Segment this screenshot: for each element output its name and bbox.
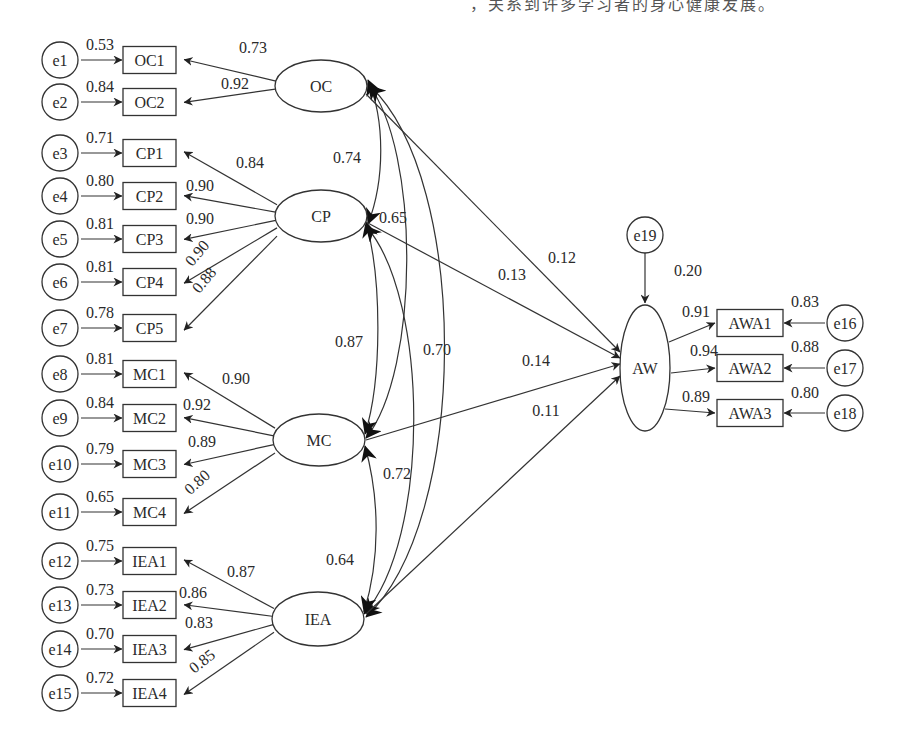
indicator-iea4: IEA4	[123, 680, 176, 707]
loading-value: 0.86	[179, 584, 207, 601]
error-loading-value: 0.71	[86, 129, 114, 146]
latent-aw: AW	[620, 305, 670, 431]
error-e19: e19	[627, 217, 663, 253]
error-e14: e14	[42, 631, 78, 667]
error-e12: e12	[42, 543, 78, 579]
error-label: e17	[833, 360, 856, 377]
loading-value: 0.73	[239, 39, 267, 56]
correlation-cp-mc	[365, 222, 378, 434]
latent-label: MC	[307, 432, 332, 449]
indicator-label: MC2	[133, 410, 166, 427]
error-label: e5	[52, 231, 67, 248]
error-label: e10	[48, 456, 71, 473]
error-label: e14	[48, 641, 71, 658]
path-coefficient: 0.11	[532, 402, 559, 419]
indicator-label: CP3	[136, 231, 164, 248]
latent-label: CP	[311, 208, 331, 225]
loading-arrow	[665, 409, 715, 413]
nodes: OCCPMCIEAAWOC1e1OC2e2CP1e3CP2e4CP3e5CP4e…	[42, 42, 863, 711]
error-loading-value: 0.78	[86, 304, 114, 321]
loading-value: 0.90	[222, 370, 250, 387]
error-label: e12	[48, 553, 71, 570]
loading-value: 0.80	[181, 466, 213, 497]
indicator-oc1: OC1	[123, 47, 176, 74]
error-label: e9	[52, 410, 67, 427]
error-e17: e17	[827, 350, 863, 386]
correlation-mc-iea	[364, 446, 376, 612]
correlation-value: 0.70	[423, 341, 451, 358]
structural-paths	[366, 94, 620, 614]
loading-value: 0.91	[682, 303, 710, 320]
sem-diagram: OCCPMCIEAAWOC1e1OC2e2CP1e3CP2e4CP3e5CP4e…	[0, 0, 897, 750]
error-e15: e15	[42, 675, 78, 711]
error-loading-value: 0.80	[86, 172, 114, 189]
error-label: e19	[633, 227, 656, 244]
indicator-label: CP2	[136, 188, 164, 205]
indicator-label: AWA3	[728, 405, 771, 422]
loading-value: 0.90	[181, 237, 212, 269]
error-e4: e4	[42, 178, 78, 214]
loading-value: 0.87	[227, 563, 255, 580]
loading-value: 0.92	[221, 75, 249, 92]
indicator-label: IEA1	[132, 553, 167, 570]
indicator-label: OC2	[134, 94, 164, 111]
indicator-cp1: CP1	[123, 140, 176, 167]
error-e16: e16	[827, 305, 863, 341]
indicator-label: OC1	[134, 52, 164, 69]
error-e18: e18	[827, 395, 863, 431]
indicator-label: AWA1	[728, 315, 771, 332]
error-loading-value: 0.84	[86, 78, 114, 95]
error-e1: e1	[42, 42, 78, 78]
correlation-value: 0.72	[383, 465, 411, 482]
error-loading-value: 0.75	[86, 537, 114, 554]
indicator-label: MC3	[133, 456, 166, 473]
latent-cp: CP	[275, 190, 367, 242]
loading-arrow	[669, 323, 715, 342]
indicator-mc1: MC1	[123, 361, 176, 388]
indicator-cp3: CP3	[123, 226, 176, 253]
indicator-label: CP5	[136, 320, 164, 337]
error-label: e4	[52, 188, 67, 205]
path-iea-aw	[366, 376, 620, 614]
loading-value: 0.89	[188, 433, 216, 450]
error-loading-value: 0.80	[791, 384, 819, 401]
loading-value: 0.90	[186, 210, 214, 227]
error-label: e15	[48, 685, 71, 702]
error-label: e7	[52, 320, 67, 337]
indicator-iea3: IEA3	[123, 636, 176, 663]
indicator-cp2: CP2	[123, 183, 176, 210]
error-e7: e7	[42, 310, 78, 346]
error-label: e16	[833, 315, 856, 332]
error-loading-value: 0.81	[86, 215, 114, 232]
error-loading-value: 0.73	[86, 581, 114, 598]
error-e11: e11	[42, 494, 78, 530]
path-coefficient: 0.13	[498, 266, 526, 283]
indicator-mc3: MC3	[123, 451, 176, 478]
loading-value: 0.84	[236, 154, 264, 171]
error-loading-value: 0.70	[86, 625, 114, 642]
latent-label: IEA	[305, 611, 332, 628]
error-e9: e9	[42, 400, 78, 436]
indicator-mc4: MC4	[123, 499, 176, 526]
indicator-oc2: OC2	[123, 89, 176, 116]
loading-value: 0.92	[183, 396, 211, 413]
error-e6: e6	[42, 264, 78, 300]
indicator-label: CP1	[136, 145, 164, 162]
error-e5: e5	[42, 221, 78, 257]
latent-label: OC	[310, 78, 332, 95]
indicator-label: AWA2	[728, 360, 771, 377]
error-loading-value: 0.84	[86, 394, 114, 411]
error-label: e2	[52, 94, 67, 111]
error-loading-value: 0.53	[86, 36, 114, 53]
path-cp-aw	[366, 222, 620, 358]
correlation-value: 0.87	[335, 333, 363, 350]
error-loading-value: 0.81	[86, 350, 114, 367]
error-loading-value: 0.72	[86, 669, 114, 686]
correlation-value: 0.65	[379, 209, 407, 226]
error-label: e13	[48, 597, 71, 614]
loading-value: 0.83	[185, 614, 213, 631]
error-label: e3	[52, 145, 67, 162]
loading-value: 0.94	[690, 342, 718, 359]
coefficient-labels: 0.530.730.840.920.710.840.800.900.810.90…	[86, 36, 819, 686]
indicator-label: CP4	[136, 274, 164, 291]
